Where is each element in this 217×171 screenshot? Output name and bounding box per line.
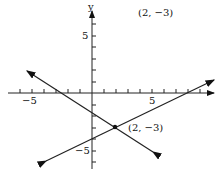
x-tick-neg5: −5 bbox=[22, 95, 37, 106]
x-tick-5: 5 bbox=[149, 95, 155, 106]
title: (2, −3) bbox=[138, 7, 173, 18]
x-ticks bbox=[20, 89, 200, 93]
chart: y (2, −3) −5 5 5 −5 (2, −3) bbox=[0, 0, 217, 171]
y-tick-5: 5 bbox=[82, 30, 88, 41]
y-axis-label: y bbox=[87, 1, 94, 12]
point-label: (2, −3) bbox=[128, 122, 163, 133]
intersection-point bbox=[113, 125, 117, 129]
y-tick-neg5: −5 bbox=[75, 145, 90, 156]
line-2 bbox=[46, 80, 214, 161]
